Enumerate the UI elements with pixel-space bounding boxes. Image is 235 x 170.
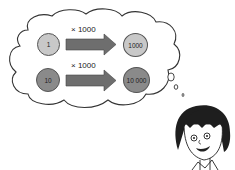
girl-character bbox=[0, 0, 235, 170]
face bbox=[184, 124, 222, 160]
collar bbox=[192, 160, 218, 170]
illustration: 1 × 1000 1000 10 × 1000 10 000 bbox=[0, 0, 235, 170]
